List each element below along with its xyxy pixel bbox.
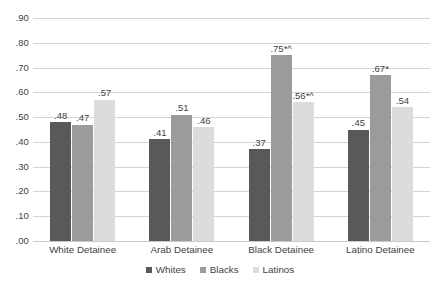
legend-item[interactable]: Latinos [253,265,295,275]
legend-item[interactable]: Whites [146,265,186,275]
x-axis-label: Black Detainee [232,245,331,255]
y-axis-tick-label: .00 [0,236,29,246]
legend-label: Latinos [263,265,295,275]
y-axis-tick-label: .80 [0,38,29,48]
y-axis-tick-label: .30 [0,162,29,172]
legend-swatch-icon [253,267,259,273]
legend-label: Whites [156,265,186,275]
legend-item[interactable]: Blacks [200,265,239,275]
legend-swatch-icon [200,267,206,273]
y-axis-tick-label: .50 [0,112,29,122]
y-axis-tick-label: .20 [0,186,29,196]
x-axis-label: Arab Detainee [132,245,231,255]
y-axis-tick-label: .60 [0,87,29,97]
legend-swatch-icon [146,267,152,273]
y-axis: .00.10.20.30.40.50.60.70.80.90 [0,0,33,287]
y-axis-tick-label: .70 [0,63,29,73]
y-axis-tick-label: .40 [0,137,29,147]
y-axis-tick-label: .90 [0,13,29,23]
chart-legend: WhitesBlacksLatinos [0,265,440,275]
y-axis-tick-label: .10 [0,211,29,221]
x-axis-category-labels: White DetaineeArab DetaineeBlack Detaine… [33,0,430,287]
bar-chart: .00.10.20.30.40.50.60.70.80.90 .48.47.57… [0,0,440,287]
x-axis-label: Latino Detainee [331,245,430,255]
x-axis-label: White Detainee [33,245,132,255]
legend-label: Blacks [210,265,239,275]
